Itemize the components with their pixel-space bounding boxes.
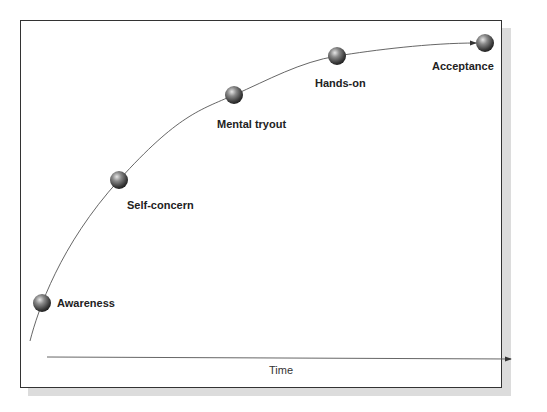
stage-label-awareness: Awareness <box>57 297 115 309</box>
stage-marker-hands-on <box>328 47 346 65</box>
stage-marker-awareness <box>33 294 51 312</box>
stage-label-acceptance: Acceptance <box>432 60 494 72</box>
stage-marker-mental-tryout <box>225 86 243 104</box>
stage-label-self-concern: Self-concern <box>127 199 194 211</box>
stage-marker-acceptance <box>476 34 494 52</box>
time-axis-label: Time <box>269 364 293 376</box>
stage-label-mental-tryout: Mental tryout <box>217 118 286 130</box>
stage-marker-self-concern <box>110 171 128 189</box>
time-axis-arrow <box>47 357 511 359</box>
stage-label-hands-on: Hands-on <box>315 77 366 89</box>
